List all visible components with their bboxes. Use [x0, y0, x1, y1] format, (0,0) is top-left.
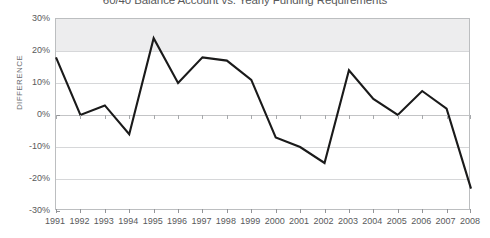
x-axis-inner-tick-1991	[56, 115, 57, 119]
x-axis-inner-tick-2005	[398, 115, 399, 119]
difference-line-series	[56, 38, 471, 188]
x-axis-tick-2000	[276, 209, 277, 213]
line-series-svg	[56, 19, 471, 211]
x-axis-inner-tick-2003	[349, 115, 350, 119]
x-axis-inner-tick-2004	[373, 115, 374, 119]
x-axis-label-2001: 2001	[289, 216, 309, 226]
x-axis-tick-2001	[300, 209, 301, 213]
x-axis-inner-tick-2002	[325, 115, 326, 119]
x-axis-inner-tick-1994	[129, 115, 130, 119]
x-axis-label-2000: 2000	[265, 216, 285, 226]
x-axis-inner-tick-1995	[154, 115, 155, 119]
x-axis-tick-2004	[373, 209, 374, 213]
x-axis-label-2007: 2007	[436, 216, 456, 226]
x-axis-label-1992: 1992	[69, 216, 89, 226]
x-axis-inner-tick-1998	[227, 115, 228, 119]
x-axis-tick-1995	[154, 209, 155, 213]
x-axis-label-1995: 1995	[143, 216, 163, 226]
x-axis-label-2005: 2005	[387, 216, 407, 226]
x-axis-label-1993: 1993	[94, 216, 114, 226]
x-axis-tick-1992	[80, 209, 81, 213]
y-axis-label-0: 0%	[4, 109, 50, 119]
plot-area	[55, 18, 470, 210]
x-axis-label-1994: 1994	[118, 216, 138, 226]
y-axis-label-30: 30%	[4, 13, 50, 23]
x-axis-inner-tick-1999	[251, 115, 252, 119]
y-axis-label--30: -30%	[4, 205, 50, 215]
chart-container: 60/40 Balance Account vs. Yearly Funding…	[0, 0, 490, 238]
x-axis-tick-1991	[56, 209, 57, 213]
x-axis-label-2006: 2006	[411, 216, 431, 226]
x-axis-label-2003: 2003	[338, 216, 358, 226]
y-axis-label--10: -10%	[4, 141, 50, 151]
x-axis-label-1991: 1991	[45, 216, 65, 226]
x-axis-inner-tick-2008	[470, 115, 471, 119]
x-axis-label-1998: 1998	[216, 216, 236, 226]
x-axis-label-1996: 1996	[167, 216, 187, 226]
x-axis-inner-tick-2006	[422, 115, 423, 119]
x-axis-tick-1999	[251, 209, 252, 213]
x-axis-inner-tick-1996	[178, 115, 179, 119]
x-axis-tick-labels: 1991199219931994199519961997199819992000…	[55, 216, 470, 232]
x-axis-inner-tick-1992	[80, 115, 81, 119]
y-axis-label-10: 10%	[4, 77, 50, 87]
x-axis-tick-2006	[422, 209, 423, 213]
x-axis-label-1999: 1999	[240, 216, 260, 226]
chart-title: 60/40 Balance Account vs. Yearly Funding…	[0, 0, 490, 6]
y-axis-tick-labels: 30%20%10%0%-10%-20%-30%	[0, 18, 50, 210]
x-axis-label-1997: 1997	[191, 216, 211, 226]
x-axis-tick-1993	[105, 209, 106, 213]
x-axis-inner-tick-2007	[447, 115, 448, 119]
x-axis-tick-1998	[227, 209, 228, 213]
x-axis-tick-2007	[447, 209, 448, 213]
x-axis-inner-tick-2001	[300, 115, 301, 119]
x-axis-inner-tick-1993	[105, 115, 106, 119]
x-axis-tick-2008	[470, 209, 471, 213]
x-axis-tick-1997	[202, 209, 203, 213]
x-axis-label-2004: 2004	[362, 216, 382, 226]
x-axis-tick-2002	[325, 209, 326, 213]
y-axis-label-20: 20%	[4, 45, 50, 55]
x-axis-tick-1994	[129, 209, 130, 213]
x-axis-tick-2005	[398, 209, 399, 213]
x-axis-label-2008: 2008	[460, 216, 480, 226]
y-axis-label--20: -20%	[4, 173, 50, 183]
x-axis-label-2002: 2002	[314, 216, 334, 226]
x-axis-tick-2003	[349, 209, 350, 213]
x-axis-inner-tick-1997	[202, 115, 203, 119]
x-axis-tick-1996	[178, 209, 179, 213]
x-axis-inner-tick-2000	[276, 115, 277, 119]
